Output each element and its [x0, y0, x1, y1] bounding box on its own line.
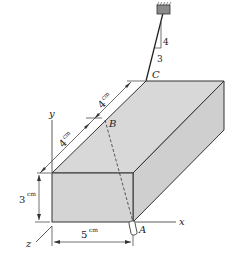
arrow-head: [37, 214, 41, 220]
statics-diagram: A B C x y z 4 3 3 cm 5 cm 4 cm 4 cm: [0, 0, 235, 255]
label-height-unit: cm: [27, 190, 36, 197]
label-a: A: [138, 224, 146, 235]
label-slope-rise: 4: [163, 37, 169, 47]
label-b: B: [108, 118, 116, 129]
label-c: C: [152, 69, 160, 80]
anchor-block: [157, 5, 170, 14]
support-a: [129, 221, 138, 236]
label-z: z: [25, 238, 32, 249]
label-y: y: [48, 108, 55, 119]
label-height: 3: [19, 194, 25, 205]
box-front-face: [52, 173, 133, 222]
label-width: 5: [81, 229, 87, 240]
label-slope-run: 3: [157, 54, 163, 64]
anchor-hatch: [157, 2, 171, 5]
label-x: x: [179, 216, 185, 227]
label-width-unit: cm: [89, 226, 98, 233]
arrow-head: [54, 240, 60, 244]
arrow-head: [37, 175, 41, 181]
arrow-head: [125, 240, 131, 244]
z-axis: [36, 226, 52, 242]
